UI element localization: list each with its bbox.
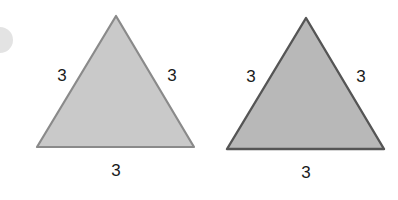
triangle-b-left-side-label: 3 bbox=[246, 67, 255, 86]
triangle-b-base-label: 3 bbox=[301, 163, 310, 182]
partial-circle-decoration bbox=[0, 27, 13, 53]
triangle-a-left-side-label: 3 bbox=[57, 66, 66, 85]
triangle-a: 3 3 3 bbox=[37, 16, 194, 180]
triangle-b: 3 3 3 bbox=[227, 18, 384, 182]
triangle-b-right-side-label: 3 bbox=[356, 67, 365, 86]
triangles-diagram: 3 3 3 3 3 3 bbox=[0, 0, 398, 200]
triangle-a-base-label: 3 bbox=[111, 161, 120, 180]
triangle-a-right-side-label: 3 bbox=[167, 66, 176, 85]
